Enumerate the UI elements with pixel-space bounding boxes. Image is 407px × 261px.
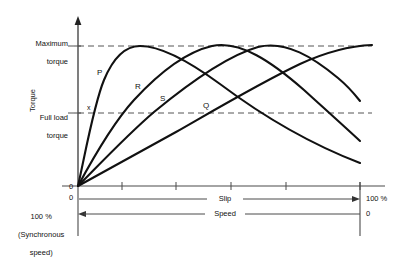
slip-axis-label: Slip (195, 194, 255, 203)
speed-origin-label: 100 % (Synchronous speed) (0, 203, 74, 261)
curve-label-r: R (135, 82, 141, 91)
origin-label-slip: 0 (69, 182, 73, 191)
speed-axis-label: Speed (195, 209, 255, 218)
origin-label-speed: 0 (69, 193, 73, 202)
curve-r (78, 45, 360, 186)
curve-label-p: P (97, 68, 102, 77)
axis-label-full-load-torque: Full load torque (6, 104, 68, 149)
y-axis-title: Torque (28, 71, 37, 131)
speed-end-label: 0 (366, 209, 370, 218)
x-marker-annotation: x (87, 103, 91, 112)
slip-end-label: 100 % (366, 194, 387, 203)
axis-label-maximum-torque: Maximum torque (6, 30, 68, 75)
x-axis (62, 182, 385, 190)
curve-label-q: Q (203, 101, 209, 110)
curve-label-s: S (160, 94, 165, 103)
y-axis (75, 16, 82, 186)
